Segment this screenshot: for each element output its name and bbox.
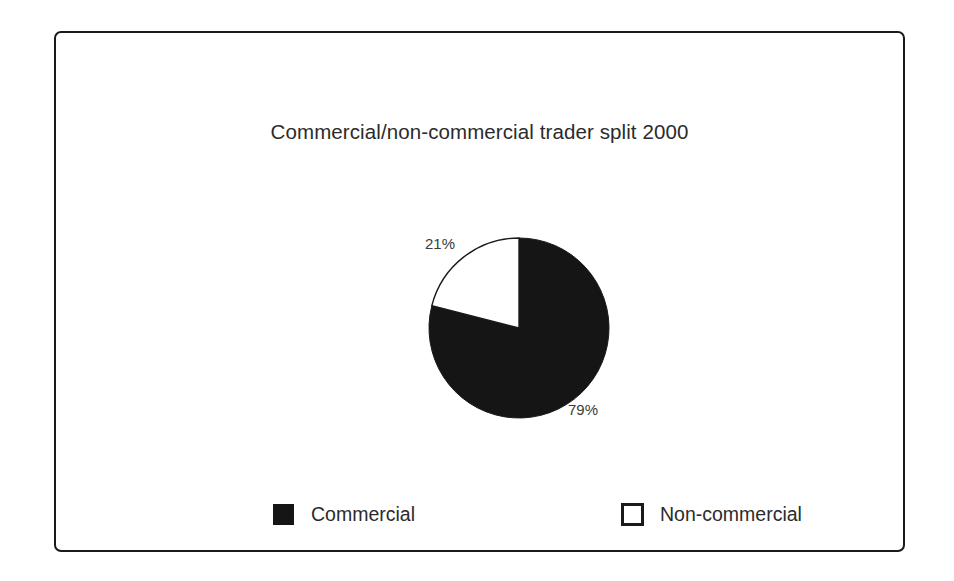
chart-legend: Commercial Non-commercial [110, 497, 854, 537]
legend-item-non-commercial[interactable]: Non-commercial [621, 497, 802, 531]
pie-label-commercial: 79% [568, 401, 598, 419]
legend-swatch-non-commercial-icon [621, 503, 644, 526]
legend-label-commercial: Commercial [311, 502, 415, 526]
legend-swatch-commercial-icon [273, 504, 294, 525]
chart-title: Commercial/non-commercial trader split 2… [56, 119, 903, 145]
pie-chart [429, 238, 609, 418]
legend-item-commercial[interactable]: Commercial [273, 497, 415, 531]
pie-chart-svg [429, 238, 609, 418]
figure-frame: Commercial/non-commercial trader split 2… [54, 31, 905, 552]
pie-label-non-commercial: 21% [425, 235, 455, 253]
legend-label-non-commercial: Non-commercial [660, 502, 802, 526]
